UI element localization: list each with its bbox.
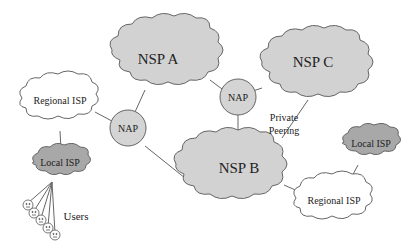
nap-right-label: NAP	[228, 92, 248, 103]
users-label: Users	[63, 210, 88, 222]
isp-hierarchy-diagram: NSP A NSP B NSP C NAP NAP Regional ISP R…	[0, 0, 415, 251]
regional-isp-right-label: Regional ISP	[307, 195, 360, 206]
local-isp-right-label: Local ISP	[351, 138, 391, 149]
edge-nap-left-to-nsp-a	[135, 90, 145, 112]
user-face-icon	[36, 215, 46, 225]
nsp-a-label: NSP A	[138, 51, 179, 68]
user-face-icon	[50, 230, 60, 240]
diagram-canvas	[0, 0, 415, 251]
nap-left-label: NAP	[118, 123, 138, 134]
private-peering-label-line2: Peering	[269, 125, 300, 136]
nsp-a-cloud	[110, 13, 223, 84]
private-peering-label-line1: Private	[270, 112, 298, 123]
local-isp-left-label: Local ISP	[40, 157, 80, 168]
nsp-b-label: NSP B	[219, 160, 260, 177]
nsp-c-label: NSP C	[293, 54, 334, 71]
regional-isp-left-label: Regional ISP	[33, 95, 86, 106]
